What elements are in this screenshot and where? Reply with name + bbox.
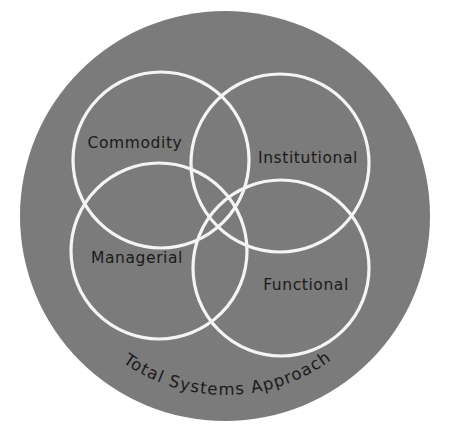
outer-circle <box>20 11 430 421</box>
commodity-label: Commodity <box>88 134 183 152</box>
institutional-label: Institutional <box>258 149 358 167</box>
managerial-label: Managerial <box>91 249 183 267</box>
venn-diagram: Commodity Institutional Managerial Funct… <box>0 0 450 430</box>
functional-label: Functional <box>263 276 349 294</box>
